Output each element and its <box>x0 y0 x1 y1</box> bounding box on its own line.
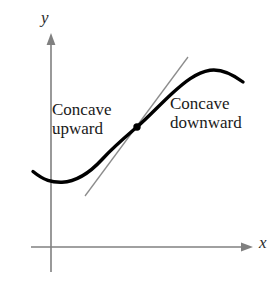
concave-downward-line-2: downward <box>170 113 242 132</box>
x-axis-arrowhead <box>241 243 253 252</box>
concave-upward-line-2: upward <box>52 119 111 138</box>
figure-canvas <box>0 0 278 286</box>
x-axis-label: x <box>259 234 267 251</box>
concave-downward-line-1: Concave <box>170 94 242 113</box>
y-axis-arrowhead <box>47 33 56 45</box>
concavity-figure: y x Concave upward Concave downward <box>0 0 278 286</box>
concave-downward-label: Concave downward <box>170 94 242 132</box>
concave-upward-label: Concave upward <box>52 100 111 138</box>
y-axis-label: y <box>41 9 49 26</box>
inflection-point-dot <box>133 123 140 130</box>
concave-upward-line-1: Concave <box>52 100 111 119</box>
inflection-point-group <box>133 123 140 130</box>
